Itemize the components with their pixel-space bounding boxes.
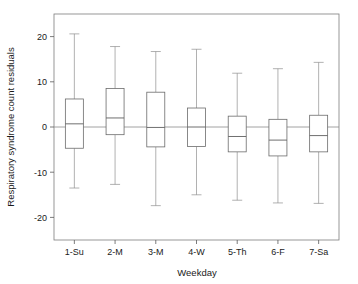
box-iqr — [106, 89, 124, 135]
y-tick-label: 0 — [42, 122, 47, 132]
y-axis-title: Respiratory syndrome count residuals — [5, 47, 16, 207]
x-tick-label: 4-W — [188, 247, 205, 257]
y-tick-label: 10 — [37, 77, 47, 87]
chart-canvas: 20100-10-20 1-Su2-M3-M4-W5-Th6-F7-Sa Wee… — [0, 0, 358, 284]
x-axis-title: Weekday — [177, 267, 217, 278]
x-tick-label: 2-M — [107, 247, 123, 257]
y-tick-label: -20 — [34, 213, 47, 223]
y-tick-label: -10 — [34, 168, 47, 178]
box-iqr — [269, 119, 287, 156]
boxplot-chart: 20100-10-20 1-Su2-M3-M4-W5-Th6-F7-Sa Wee… — [0, 0, 358, 284]
x-tick-label: 7-Sa — [309, 247, 328, 257]
box-iqr — [228, 116, 246, 152]
x-tick-label: 1-Su — [65, 247, 84, 257]
x-tick-label: 6-F — [271, 247, 285, 257]
x-tick-label: 5-Th — [228, 247, 247, 257]
y-tick-label: 20 — [37, 32, 47, 42]
box-iqr — [310, 115, 328, 152]
box-iqr — [147, 92, 165, 147]
x-tick-label: 3-M — [148, 247, 164, 257]
